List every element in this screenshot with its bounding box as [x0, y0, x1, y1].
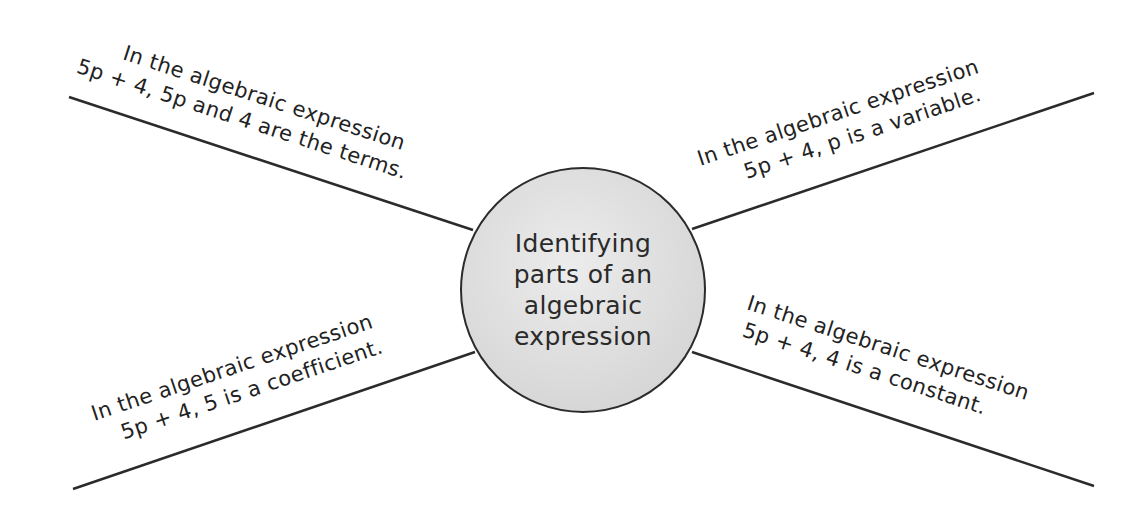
central-topic-line: parts of an: [514, 259, 653, 290]
central-topic-line: algebraic: [514, 290, 653, 321]
central-topic-label: Identifying parts of an algebraic expres…: [514, 228, 653, 352]
central-topic-line: expression: [514, 321, 653, 352]
central-topic-circle: Identifying parts of an algebraic expres…: [460, 167, 706, 413]
central-topic-line: Identifying: [514, 228, 653, 259]
